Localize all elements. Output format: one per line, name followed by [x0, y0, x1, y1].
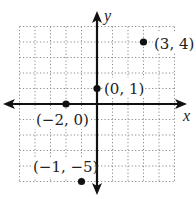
data-point: [93, 85, 100, 92]
data-point: [62, 100, 69, 107]
coordinate-plane: y x (3, 4) (0, 1) (−2, 0) (−1, −5): [0, 0, 196, 199]
x-axis-label: x: [182, 107, 190, 124]
y-axis-label: y: [102, 7, 112, 25]
point-label-neg2-0: (−2, 0): [36, 111, 89, 129]
data-point: [140, 38, 147, 45]
point-label-neg1-neg5: (−1, −5): [33, 158, 98, 176]
point-label-0-1: (0, 1): [104, 80, 144, 98]
data-point: [78, 178, 85, 185]
x-axis: [3, 99, 187, 109]
point-label-3-4: (3, 4): [154, 35, 194, 53]
